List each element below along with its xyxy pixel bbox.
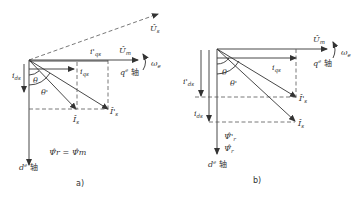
is-prime-label-a: Î's bbox=[109, 107, 118, 117]
um-label-b: Ûm bbox=[313, 35, 325, 45]
omega-label-b: ωe bbox=[341, 48, 352, 58]
is-vector-b bbox=[217, 49, 295, 121]
is-label-a: Îs bbox=[72, 115, 79, 125]
d-axis-label-a: de 轴 bbox=[19, 162, 38, 172]
theta-prime-label-a: θ' bbox=[41, 88, 48, 97]
theta-label-a: θ bbox=[33, 76, 38, 85]
iqs-label-a: iqs bbox=[80, 67, 89, 78]
iqs-prime-label-a: i'qs bbox=[90, 47, 101, 58]
theta-prime-arc-b bbox=[217, 61, 239, 74]
omega-arrow-b bbox=[333, 42, 335, 58]
phasor-diagram: Ûs i'qs Ûm qe 轴 ωe iqs ids θ θ' Îs Î's Ψ… bbox=[0, 0, 363, 199]
is-label-b: Îs bbox=[297, 119, 304, 129]
q-axis-label-a: qe 轴 bbox=[120, 67, 139, 77]
theta-label-b: θ bbox=[222, 68, 227, 77]
theta-arc-a bbox=[29, 71, 39, 75]
caption-a: a) bbox=[76, 179, 84, 188]
ids-prime-label-b: i'ds bbox=[183, 77, 194, 87]
ids-label-b: ids bbox=[194, 109, 203, 119]
omega-arrow-a bbox=[143, 54, 146, 70]
um-label-a: Ûm bbox=[119, 46, 131, 56]
q-axis-label-b: qe 轴 bbox=[313, 58, 332, 68]
is-prime-vector-b bbox=[217, 49, 296, 97]
iqs-label-b: iqs bbox=[272, 63, 281, 74]
diagram-a: Ûs i'qs Ûm qe 轴 ωe iqs ids θ θ' Îs Î's Ψ… bbox=[12, 14, 162, 188]
theta-prime-label-b: θ' bbox=[230, 79, 237, 88]
diagram-b: Ûm qe 轴 ωe iqs i'ds ids θ θ' Î's Îs Ψ̂'r… bbox=[183, 35, 352, 185]
psi-r-prime-label: Ψ̂'r bbox=[224, 132, 236, 142]
psi-equation-label: Ψ̂r = Ψ̂m bbox=[49, 148, 87, 157]
d-axis-label-b: de 轴 bbox=[208, 159, 227, 169]
psi-r-label: Ψ̂r bbox=[224, 144, 234, 154]
is-prime-label-b: Î's bbox=[298, 94, 307, 104]
caption-b: b) bbox=[253, 176, 261, 185]
ids-label-a: ids bbox=[12, 71, 21, 81]
omega-label-a: ωe bbox=[151, 59, 162, 69]
us-label: Ûs bbox=[150, 24, 160, 34]
